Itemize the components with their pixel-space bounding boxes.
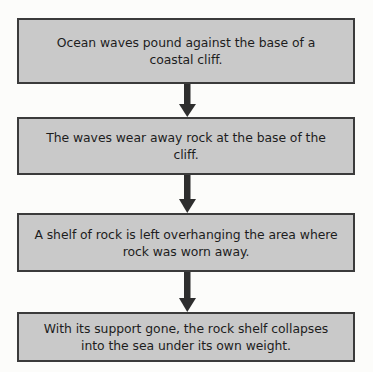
flowchart-node-label: The waves wear away rock at the base of … xyxy=(33,129,339,163)
flowchart-node-step-2: The waves wear away rock at the base of … xyxy=(17,117,355,175)
flowchart-node-label: With its support gone, the rock shelf co… xyxy=(33,320,339,354)
flowchart-node-label: A shelf of rock is left overhanging the … xyxy=(33,226,339,260)
flowchart-connector-arrow-1-to-2 xyxy=(0,84,373,117)
arrow-down-icon xyxy=(179,175,196,213)
arrow-down-icon xyxy=(179,272,196,312)
flowchart-node-step-4: With its support gone, the rock shelf co… xyxy=(17,312,355,362)
flowchart-node-step-3: A shelf of rock is left overhanging the … xyxy=(17,213,355,272)
flowchart-connector-arrow-3-to-4 xyxy=(0,272,373,312)
flowchart-connector-arrow-2-to-3 xyxy=(0,175,373,213)
flowchart-node-label: Ocean waves pound against the base of a … xyxy=(33,34,339,68)
flowchart-diagram: Ocean waves pound against the base of a … xyxy=(0,0,373,372)
arrow-down-icon xyxy=(179,84,196,117)
flowchart-node-step-1: Ocean waves pound against the base of a … xyxy=(17,18,355,84)
